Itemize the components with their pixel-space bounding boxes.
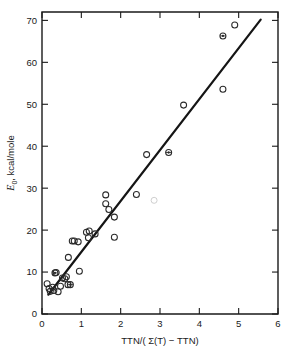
y-tick-label-10: 10 [26, 266, 37, 277]
y-tick-label-60: 60 [26, 57, 37, 68]
x-tick-label-4: 4 [197, 318, 202, 329]
x-tick-label-6: 6 [275, 318, 280, 329]
x-tick-label-1: 1 [79, 318, 84, 329]
x-axis-title: TTN/( Σ(T) − TTN) [121, 335, 198, 346]
y-tick-label-40: 40 [26, 141, 37, 152]
x-tick-label-0: 0 [39, 318, 44, 329]
y-axis-symbol: E [5, 185, 16, 192]
x-tick-label-2: 2 [118, 318, 123, 329]
y-tick-label-0: 0 [32, 308, 37, 319]
x-axis-title-text: TTN/( Σ(T) − TTN) [121, 335, 198, 346]
y-tick-label-20: 20 [26, 225, 37, 236]
y-tick-label-50: 50 [26, 99, 37, 110]
figure-background [0, 0, 294, 356]
x-tick-label-3: 3 [157, 318, 162, 329]
x-tick-label-5: 5 [236, 318, 241, 329]
y-tick-label-70: 70 [26, 15, 37, 26]
scatter-plot: 0123456 010203040506070 TTN/( Σ(T) − TTN… [0, 0, 294, 356]
figure-container: 0123456 010203040506070 TTN/( Σ(T) − TTN… [0, 0, 294, 356]
y-tick-label-30: 30 [26, 183, 37, 194]
y-axis-units: , kcal/mole [5, 135, 16, 180]
